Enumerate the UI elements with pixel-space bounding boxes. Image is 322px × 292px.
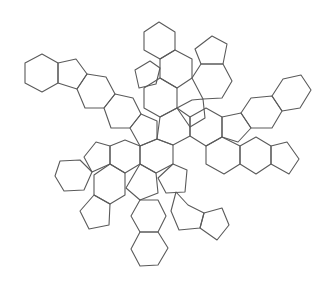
hexagon-ring: [25, 54, 58, 92]
ring-structure-svg: [0, 0, 322, 292]
hexagon-ring: [192, 64, 232, 99]
hexagon-ring: [157, 108, 190, 145]
hexagon-ring: [240, 137, 271, 174]
hexagon-ring: [55, 160, 92, 191]
pentagon-ring: [222, 113, 251, 142]
hexagon-ring: [131, 200, 166, 232]
pentagon-ring: [135, 61, 160, 88]
hexagon-ring: [160, 50, 192, 88]
pentagon-ring: [58, 59, 87, 89]
hexagon-ring: [272, 75, 311, 111]
hexagon-ring: [131, 232, 168, 266]
pentagon-ring: [80, 195, 110, 229]
hexagon-ring: [206, 137, 240, 174]
pentagon-ring: [200, 208, 229, 240]
hexagon-ring: [77, 74, 115, 108]
pentagon-ring: [271, 142, 299, 174]
pentagon-ring: [177, 99, 205, 127]
pentagon-ring: [195, 36, 227, 64]
hexagon-ring: [171, 192, 204, 230]
hexagon-ring: [144, 22, 175, 59]
pentagon-ring: [158, 164, 187, 193]
hexagon-ring: [104, 94, 141, 128]
molecule-diagram: [0, 0, 322, 292]
hexagon-ring: [110, 140, 140, 173]
